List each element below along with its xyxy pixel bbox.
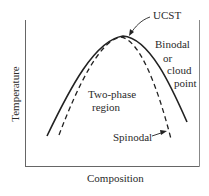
binodal-label-line3: cloud [167, 64, 191, 76]
binodal-label-line4: point [174, 77, 197, 89]
y-axis-label: Temperature [9, 59, 21, 129]
region-label-line2: region [92, 101, 120, 113]
ucst-arrow [131, 17, 150, 33]
binodal-label-line1: Binodal [155, 38, 190, 50]
binodal-label-line2: or [163, 52, 172, 64]
ucst-label: UCST [153, 9, 181, 21]
spinodal-arrowhead [160, 130, 167, 135]
region-label-line1: Two-phase [88, 88, 136, 100]
spinodal-label: Spinodal [113, 131, 152, 143]
x-axis-label: Composition [87, 172, 144, 184]
